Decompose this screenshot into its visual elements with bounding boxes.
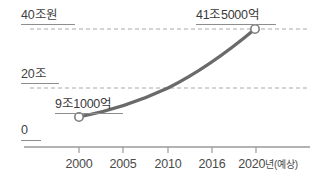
- x-axis-label-2020-value: 2020: [238, 157, 265, 171]
- data-label-start-point: 9조1000억: [55, 98, 112, 111]
- x-axis-label-2016-value: 2016: [198, 157, 225, 171]
- data-label-end-underline: [196, 24, 276, 25]
- x-axis-label-2000: 2000: [65, 158, 92, 171]
- data-point-marker-start: [75, 113, 83, 121]
- x-axis-label-2020: 2020년(예상): [238, 158, 298, 171]
- x-axis-label-2000-value: 2000: [65, 157, 92, 171]
- x-axis-label-2016: 2016: [198, 158, 225, 171]
- x-axis-label-2010-value: 2010: [154, 157, 181, 171]
- x-axis-label-2020-suffix: 년(예상): [265, 159, 298, 170]
- y-axis-label-0-underline: [21, 140, 41, 141]
- data-label-start-underline: [55, 113, 123, 114]
- y-axis-label-40-underline: [21, 24, 75, 25]
- x-axis-label-2005-value: 2005: [109, 157, 136, 171]
- data-label-end-point: 41조5000억: [196, 9, 259, 22]
- chart-canvas: [0, 0, 324, 179]
- y-axis-label-20-underline: [21, 83, 59, 84]
- x-axis-label-2010: 2010: [154, 158, 181, 171]
- y-axis-label-20: 20조: [21, 68, 46, 81]
- line-chart: 40조원 20조 0 9조1000억 41조5000억 2000 2005 20…: [0, 0, 324, 179]
- data-point-marker-end: [251, 25, 259, 33]
- x-axis-label-2005: 2005: [109, 158, 136, 171]
- y-axis-label-0: 0: [21, 124, 28, 137]
- y-axis-label-40: 40조원: [21, 9, 58, 22]
